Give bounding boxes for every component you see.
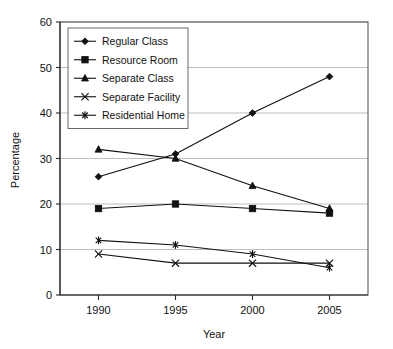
legend-label: Residential Home xyxy=(102,109,185,121)
legend-label: Separate Facility xyxy=(102,91,181,103)
data-point xyxy=(172,201,178,207)
x-tick-label: 1990 xyxy=(86,304,110,316)
x-tick-label: 2000 xyxy=(240,304,264,316)
line-chart: 0102030405060 1990199520002005 Regular C… xyxy=(0,0,393,349)
chart-legend: Regular ClassResource RoomSeparate Class… xyxy=(68,28,188,129)
legend-label: Resource Room xyxy=(102,54,178,66)
x-tick-label: 2005 xyxy=(317,304,341,316)
x-tick-label: 1995 xyxy=(163,304,187,316)
y-tick-label: 20 xyxy=(40,198,52,210)
y-tick-label: 40 xyxy=(40,107,52,119)
legend-marker-square-icon xyxy=(82,57,88,63)
y-axis-title: Percentage xyxy=(9,132,21,188)
y-tick-label: 50 xyxy=(40,62,52,74)
data-point xyxy=(249,205,255,211)
data-point xyxy=(95,205,101,211)
y-tick-label: 10 xyxy=(40,244,52,256)
x-axis-title: Year xyxy=(203,328,226,340)
legend-label: Separate Class xyxy=(102,72,174,84)
plot-background xyxy=(0,0,393,349)
legend-label: Regular Class xyxy=(102,35,168,47)
y-tick-label: 0 xyxy=(46,289,52,301)
chart-canvas: 0102030405060 1990199520002005 Regular C… xyxy=(0,0,393,349)
y-tick-label: 30 xyxy=(40,153,52,165)
y-tick-label: 60 xyxy=(40,16,52,28)
